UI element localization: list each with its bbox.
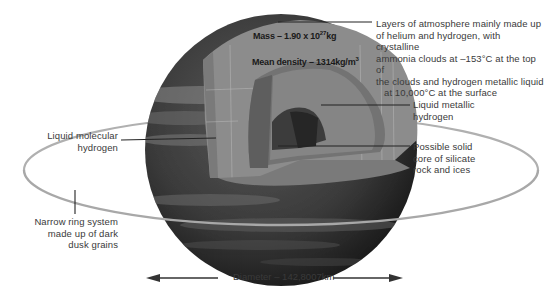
- label-line: Liquid metallic: [413, 99, 475, 111]
- label-line: the clouds and hydrogen metallic liquid: [376, 76, 544, 88]
- density-value: Mean density – 1314kg/m: [252, 57, 355, 67]
- planet-sphere: [130, 14, 417, 286]
- diameter-label: Diameter – 142,8007km: [233, 271, 334, 282]
- label-line: rock and ices: [413, 164, 475, 176]
- label-ring-system: Narrow ring system made up of dark dusk …: [10, 216, 118, 251]
- label-core: Possible solid core of silicate rock and…: [413, 141, 475, 176]
- mass-stat: Mass – 1.90 x 1027kg: [253, 30, 336, 41]
- label-line: at 10,000°C at the surface: [376, 87, 544, 99]
- label-line: Possible solid: [413, 141, 475, 153]
- label-line: of helium and hydrogen, with crystalline: [376, 30, 544, 53]
- density-exponent: 3: [355, 56, 358, 62]
- label-line: hydrogen: [30, 142, 118, 154]
- label-line: Narrow ring system: [10, 216, 118, 228]
- label-atmosphere: Layers of atmosphere mainly made up of h…: [376, 18, 544, 99]
- label-line: dusk grains: [10, 239, 118, 251]
- label-line: hydrogen: [413, 111, 475, 123]
- label-line: core of silicate: [413, 153, 475, 165]
- label-line: Liquid molecular: [30, 130, 118, 142]
- label-liquid-molecular-hydrogen: Liquid molecular hydrogen: [30, 130, 118, 153]
- label-line: made up of dark: [10, 228, 118, 240]
- label-line: ammonia clouds at –153°C at the top of: [376, 53, 544, 76]
- mass-unit: kg: [326, 31, 336, 41]
- label-liquid-metallic-hydrogen: Liquid metallic hydrogen: [413, 99, 475, 122]
- label-line: Layers of atmosphere mainly made up: [376, 18, 544, 30]
- density-stat: Mean density – 1314kg/m3: [252, 56, 359, 67]
- mass-value: Mass – 1.90 x 10: [253, 31, 320, 41]
